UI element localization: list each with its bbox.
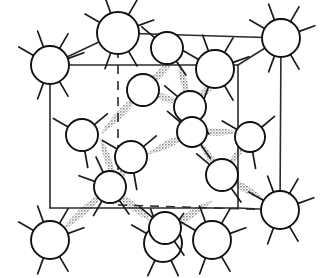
- bond-stub: [142, 27, 156, 39]
- bond-stub: [59, 81, 68, 97]
- bond-stub: [38, 82, 44, 99]
- bond-stub: [221, 256, 230, 272]
- bond-stub: [96, 157, 104, 173]
- atom-circle: [196, 50, 234, 88]
- atoms-group: [19, 0, 315, 276]
- atom-circle: [31, 46, 69, 84]
- atom-circle: [262, 19, 300, 57]
- bond-stub: [224, 85, 233, 101]
- bond-stub: [38, 206, 44, 223]
- cube-edge-front-top: [118, 33, 281, 38]
- bond-stub: [229, 228, 246, 234]
- bond-stub: [297, 198, 314, 204]
- bond-stub: [289, 179, 298, 195]
- bond-stub: [59, 209, 68, 225]
- bond-stub: [105, 0, 111, 14]
- bond-stub: [59, 34, 68, 50]
- cube-edge-front-right: [280, 38, 281, 210]
- bond-stub: [59, 256, 68, 272]
- atom-circle: [94, 171, 126, 203]
- bond-stub: [231, 187, 241, 202]
- atom-interior-upper-left: [127, 74, 159, 106]
- bond-stub: [261, 116, 275, 128]
- bond-stub: [252, 151, 255, 169]
- bond-stub: [128, 0, 137, 16]
- bond-stub: [184, 51, 200, 60]
- crystal-lattice-diagram: Diamond cubic crystal lattice unit cell …: [0, 0, 323, 278]
- atom-circle: [193, 221, 231, 259]
- bond-stub: [221, 209, 230, 225]
- bond-stub: [19, 47, 35, 56]
- atom-circle: [127, 74, 159, 106]
- atom-circle: [149, 212, 181, 244]
- atom-circle: [66, 119, 98, 151]
- bond-stub: [67, 228, 84, 234]
- bond-stub: [268, 176, 274, 193]
- atom-circle: [206, 159, 238, 191]
- bond-stub: [181, 222, 197, 231]
- bond-stub: [222, 121, 238, 130]
- bond-stub: [85, 14, 101, 23]
- bond-stub: [93, 114, 107, 126]
- bond-stub: [290, 7, 299, 23]
- bond-stub: [53, 119, 69, 128]
- atom-circle: [177, 117, 207, 147]
- bond-stub: [269, 55, 275, 72]
- atom-circle: [151, 32, 183, 64]
- bond-stub: [148, 259, 156, 275]
- bond-stub: [142, 136, 156, 148]
- bond-stub: [85, 150, 88, 168]
- bond-stub: [105, 52, 111, 69]
- bond-stub: [203, 35, 209, 52]
- bond-stub: [171, 259, 179, 275]
- atom-face-left: [53, 114, 107, 168]
- bond-stub: [298, 26, 315, 32]
- bond-stub: [137, 20, 154, 26]
- bond-stub: [290, 54, 299, 70]
- bond-stub: [134, 172, 137, 190]
- bond-stub: [38, 257, 44, 274]
- bond-stub: [200, 257, 206, 274]
- bond-stub: [79, 176, 96, 182]
- bond-stub: [38, 31, 44, 48]
- bond-stub: [250, 20, 266, 29]
- atom-circle: [115, 141, 147, 173]
- bond-stub: [224, 38, 233, 54]
- atom-circle: [31, 221, 69, 259]
- atom-corner-back-bottom-right: [249, 176, 314, 244]
- bond-stub: [19, 222, 35, 231]
- atom-circle: [97, 12, 139, 54]
- bond-stub: [132, 225, 148, 234]
- bond-stub: [289, 226, 298, 242]
- bond-stub: [268, 227, 274, 244]
- bond-stub: [269, 4, 275, 21]
- atom-circle: [235, 122, 265, 152]
- atom-circle: [261, 191, 299, 229]
- bond-stub: [128, 50, 137, 66]
